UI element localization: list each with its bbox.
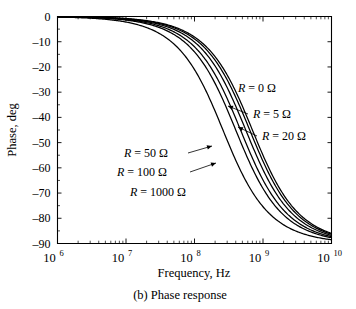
y-tick-label: –50 xyxy=(32,136,51,150)
x-tick-label: 107 xyxy=(112,248,133,265)
curve-series xyxy=(58,17,332,234)
x-tick-mantissa: 10 xyxy=(112,251,125,265)
x-tick-label: 1010 xyxy=(317,248,342,265)
series-label: R = 100 Ω xyxy=(116,165,167,179)
annotation-leader-arrowhead xyxy=(228,106,233,110)
series-label: R = 50 Ω xyxy=(123,146,168,160)
x-tick-exponent: 8 xyxy=(197,248,201,258)
series-annotations: R = 0 ΩR = 5 ΩR = 20 ΩR = 50 ΩR = 100 ΩR… xyxy=(116,81,306,199)
phase-response-chart: 0–10–20–30–40–50–60–70–80–90 10610710810… xyxy=(0,0,356,309)
y-tick-label: –40 xyxy=(32,110,51,124)
y-tick-label: –80 xyxy=(32,211,51,225)
y-tick-label: –10 xyxy=(32,35,51,49)
x-tick-exponent: 10 xyxy=(334,248,343,258)
figure-caption: (b) Phase response xyxy=(133,288,227,302)
figure-caption-text: (b) Phase response xyxy=(133,288,227,302)
series-label: R = 5 Ω xyxy=(252,107,291,121)
annotation-leader-arrowhead xyxy=(207,145,212,149)
x-axis-tick-labels: 1061071081091010 xyxy=(43,248,342,265)
x-tick-mantissa: 10 xyxy=(43,251,56,265)
series-label: R = 20 Ω xyxy=(261,129,306,143)
y-tick-label: –30 xyxy=(32,85,51,99)
series-label: R = 0 Ω xyxy=(237,81,276,95)
x-axis-title-text: Frequency, Hz xyxy=(158,266,231,280)
curve-series xyxy=(58,17,332,235)
x-tick-mantissa: 10 xyxy=(249,251,262,265)
x-tick-exponent: 6 xyxy=(60,248,64,258)
y-tick-label: –90 xyxy=(32,237,51,251)
y-axis-title-text: Phase, deg xyxy=(5,103,19,157)
y-tick-label: –70 xyxy=(32,186,51,200)
y-axis-title: Phase, deg xyxy=(5,103,19,157)
x-tick-label: 106 xyxy=(43,248,64,265)
annotation-leader-arrowhead xyxy=(211,163,216,167)
curve-series xyxy=(58,17,332,236)
x-tick-exponent: 9 xyxy=(265,248,269,258)
series-label: R = 1000 Ω xyxy=(129,185,186,199)
y-tick-label: –60 xyxy=(32,161,51,175)
x-tick-label: 109 xyxy=(249,248,270,265)
y-tick-label: –20 xyxy=(32,60,51,74)
x-tick-exponent: 7 xyxy=(128,248,132,258)
x-tick-mantissa: 10 xyxy=(317,251,330,265)
phase-response-figure: 0–10–20–30–40–50–60–70–80–90 10610710810… xyxy=(0,0,356,309)
x-tick-label: 108 xyxy=(180,248,201,265)
y-tick-label: 0 xyxy=(45,10,51,24)
x-tick-mantissa: 10 xyxy=(180,251,193,265)
x-axis-title: Frequency, Hz xyxy=(158,266,231,280)
y-axis-tick-labels: 0–10–20–30–40–50–60–70–80–90 xyxy=(32,10,51,251)
